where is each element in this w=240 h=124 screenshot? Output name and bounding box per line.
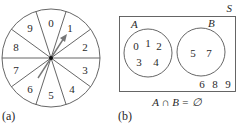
- set-a-element: 0: [133, 40, 139, 52]
- caption-a: (a): [2, 109, 15, 123]
- figure: 0 1 2 3 4 5 6 7 8 9 (a) S A B 0 1 2 3 4 …: [0, 0, 240, 124]
- set-b-label: B: [208, 17, 215, 29]
- outside-element: 9: [225, 78, 231, 90]
- sector-label-5: 5: [48, 89, 54, 101]
- sector-label-9: 9: [27, 22, 33, 34]
- spinner: 0 1 2 3 4 5 6 7 8 9: [2, 9, 100, 107]
- sector-label-8: 8: [13, 41, 19, 53]
- set-a-element: 4: [153, 56, 159, 68]
- outside-element: 8: [212, 78, 218, 90]
- set-a-element: 2: [156, 40, 162, 52]
- set-b-circle: [177, 28, 225, 76]
- set-b-element: 7: [206, 47, 212, 59]
- disjoint-formula: A ∩ B = ∅: [151, 96, 202, 108]
- sector-label-3: 3: [82, 64, 88, 76]
- set-a-element: 3: [136, 56, 142, 68]
- outside-element: 6: [199, 78, 205, 90]
- spinner-arrow-icon: [38, 34, 67, 78]
- caption-b: (b): [118, 109, 132, 123]
- sector-label-6: 6: [27, 83, 33, 95]
- set-a-label: A: [130, 18, 138, 30]
- sector-label-0: 0: [48, 17, 54, 29]
- sector-label-1: 1: [67, 22, 73, 34]
- sector-label-4: 4: [69, 83, 75, 95]
- sector-label-2: 2: [82, 41, 88, 53]
- venn-diagram: S A B 0 1 2 3 4 5 7 6 8 9 A ∩ B = ∅: [120, 2, 236, 108]
- universe-label: S: [227, 2, 233, 14]
- set-b-element: 5: [190, 47, 196, 59]
- sector-label-7: 7: [13, 64, 19, 76]
- set-a-element: 1: [145, 37, 151, 49]
